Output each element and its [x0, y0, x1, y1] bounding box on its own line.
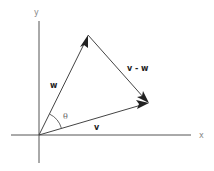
vector-v-minus-w-label: v - w — [127, 64, 149, 73]
y-axis-label: y — [34, 8, 39, 17]
vector-w-arrowhead-icon — [80, 35, 88, 48]
vector-v-label: v — [94, 123, 100, 132]
x-axis-label: x — [199, 131, 204, 140]
angle-arc — [50, 114, 62, 129]
vector-v — [39, 105, 143, 136]
vector-w-label: w — [50, 81, 58, 90]
angle-theta-label: θ — [63, 112, 68, 121]
vector-diagram: y x w v v - w θ — [0, 0, 214, 171]
